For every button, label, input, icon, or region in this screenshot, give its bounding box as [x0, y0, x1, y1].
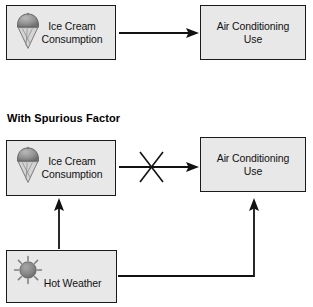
x-cross-icon	[140, 152, 163, 182]
ice-cream-cone-icon	[15, 146, 41, 184]
causal-diagram: Ice Cream Consumption Air Conditioning U…	[0, 0, 313, 307]
node-label: Ice Cream Consumption	[42, 20, 103, 46]
node-air-conditioning-use-mid: Air Conditioning Use	[200, 137, 306, 192]
node-hot-weather: Hot Weather	[6, 250, 117, 303]
node-label: Ice Cream Consumption	[42, 155, 103, 181]
node-label: Air Conditioning Use	[217, 152, 290, 178]
spurious-factor-heading: With Spurious Factor	[7, 112, 120, 124]
sun-icon	[13, 255, 43, 285]
node-label: Hot Weather	[44, 277, 102, 290]
node-label: Air Conditioning Use	[217, 20, 290, 46]
node-ice-cream-consumption-mid: Ice Cream Consumption	[6, 140, 116, 196]
edge-cause-to-effect-top	[119, 28, 199, 38]
node-air-conditioning-use-top: Air Conditioning Use	[200, 5, 306, 60]
edge-confounder-to-effect	[118, 198, 259, 276]
ice-cream-cone-icon	[15, 12, 41, 50]
edge-cause-to-effect-mid	[119, 152, 199, 182]
node-ice-cream-consumption-top: Ice Cream Consumption	[6, 5, 116, 60]
edge-confounder-to-cause	[54, 198, 64, 249]
